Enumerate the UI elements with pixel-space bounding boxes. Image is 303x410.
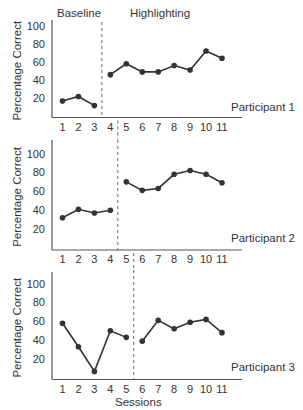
y-tick-label: 100: [27, 148, 45, 160]
data-point: [139, 188, 145, 194]
participant-label: Participant 2: [231, 232, 295, 244]
x-tick-label: 8: [171, 253, 177, 265]
x-axis-label: Sessions: [115, 396, 162, 408]
x-tick-label: 2: [75, 383, 81, 395]
data-point: [203, 317, 209, 323]
y-axis-label: Percentage Correct: [11, 146, 23, 247]
y-tick-label: 80: [33, 296, 45, 308]
data-point: [219, 55, 225, 61]
y-tick-label: 40: [33, 74, 45, 86]
x-tick-label: 9: [187, 383, 193, 395]
x-tick-label: 1: [59, 383, 65, 395]
data-point: [219, 180, 225, 186]
x-tick-label: 11: [216, 383, 227, 395]
data-point: [108, 207, 114, 213]
data-point: [203, 171, 209, 177]
data-point: [124, 179, 130, 185]
data-point: [139, 69, 145, 75]
x-tick-label: 1: [59, 121, 65, 133]
y-axis-label: Percentage Correct: [11, 20, 23, 121]
x-tick-label: 3: [91, 253, 97, 265]
x-tick-label: 10: [200, 253, 212, 265]
x-tick-label: 5: [123, 253, 129, 265]
y-tick-label: 80: [33, 38, 45, 50]
data-point: [76, 206, 82, 212]
series-line-baseline: [63, 323, 127, 371]
data-point: [155, 186, 161, 192]
data-point: [92, 103, 98, 109]
data-point: [92, 369, 98, 375]
x-tick-label: 7: [155, 121, 161, 133]
data-point: [92, 210, 98, 216]
x-tick-label: 1: [59, 253, 65, 265]
x-tick-label: 6: [139, 121, 145, 133]
multiple-baseline-figure: Baseline Highlighting 20406080100Percent…: [0, 0, 303, 410]
x-tick-label: 3: [91, 383, 97, 395]
y-tick-label: 80: [33, 166, 45, 178]
highlighting-phase-label: Highlighting: [130, 7, 190, 19]
data-point: [124, 61, 130, 67]
y-tick-label: 60: [33, 185, 45, 197]
y-tick-label: 100: [27, 278, 45, 290]
data-point: [187, 67, 193, 73]
data-point: [76, 344, 82, 350]
y-tick-label: 100: [27, 20, 45, 32]
y-tick-label: 20: [33, 92, 45, 104]
y-tick-label: 20: [33, 223, 45, 235]
data-point: [219, 330, 225, 336]
y-tick-label: 40: [33, 204, 45, 216]
series-line-baseline: [63, 209, 111, 218]
x-tick-label: 11: [216, 121, 227, 133]
x-tick-label: 3: [91, 121, 97, 133]
data-point: [124, 335, 130, 341]
panel-participant-3: 20406080100Percentage Correct12345678910…: [11, 270, 295, 395]
x-tick-label: 5: [123, 383, 129, 395]
y-tick-label: 20: [33, 353, 45, 365]
x-tick-label: 8: [171, 383, 177, 395]
x-tick-label: 2: [75, 121, 81, 133]
x-tick-label: 6: [139, 253, 145, 265]
data-point: [171, 171, 177, 177]
data-point: [171, 326, 177, 332]
data-point: [108, 72, 114, 78]
data-point: [203, 48, 209, 54]
data-point: [60, 215, 66, 221]
x-tick-label: 9: [187, 121, 193, 133]
data-point: [155, 318, 161, 324]
y-tick-label: 60: [33, 315, 45, 327]
data-point: [108, 328, 114, 334]
y-tick-label: 40: [33, 334, 45, 346]
panel-participant-2: 20406080100Percentage Correct12345678910…: [11, 140, 295, 272]
data-point: [60, 320, 66, 326]
x-tick-label: 4: [107, 121, 113, 133]
data-point: [139, 338, 145, 344]
x-tick-label: 10: [200, 121, 212, 133]
participant-label: Participant 1: [231, 101, 295, 113]
y-tick-label: 60: [33, 56, 45, 68]
x-tick-label: 4: [107, 383, 113, 395]
data-point: [60, 98, 66, 104]
x-tick-label: 7: [155, 383, 161, 395]
x-tick-label: 11: [216, 253, 227, 265]
data-point: [171, 63, 177, 69]
y-axis-label: Percentage Correct: [11, 277, 23, 378]
data-point: [187, 168, 193, 174]
data-point: [76, 94, 82, 100]
x-tick-label: 9: [187, 253, 193, 265]
x-tick-label: 5: [123, 121, 129, 133]
series-line-highlighting: [142, 319, 222, 341]
x-tick-label: 8: [171, 121, 177, 133]
participant-label: Participant 3: [231, 361, 295, 373]
x-tick-label: 6: [139, 383, 145, 395]
x-tick-label: 2: [75, 253, 81, 265]
x-tick-label: 7: [155, 253, 161, 265]
x-tick-label: 10: [200, 383, 212, 395]
baseline-phase-label: Baseline: [57, 7, 101, 19]
data-point: [155, 69, 161, 75]
data-point: [187, 319, 193, 325]
x-tick-label: 4: [107, 253, 113, 265]
panel-participant-1: 20406080100Percentage Correct12345678910…: [11, 20, 295, 140]
